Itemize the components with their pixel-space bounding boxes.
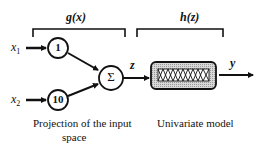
w1-to-sum-arrow bbox=[68, 53, 98, 70]
sum-symbol: Σ bbox=[101, 69, 121, 85]
w2-to-sum-arrow bbox=[68, 84, 98, 96]
h-bracket bbox=[137, 29, 223, 37]
input-x1-label: x1 bbox=[11, 40, 20, 56]
h-function-label: h(z) bbox=[180, 10, 199, 25]
weight-1-value: 1 bbox=[48, 41, 68, 53]
y-label: y bbox=[230, 56, 235, 71]
projection-caption-line1: Projection of the input bbox=[33, 117, 132, 129]
diagram-canvas bbox=[0, 0, 266, 153]
z-label: z bbox=[130, 58, 135, 73]
univariate-caption: Univariate model bbox=[157, 117, 234, 129]
g-bracket bbox=[33, 29, 125, 37]
input-x2-label: x2 bbox=[11, 92, 20, 108]
weight-2-value: 10 bbox=[48, 93, 68, 105]
projection-caption-line2: space bbox=[62, 131, 86, 143]
g-function-label: g(x) bbox=[66, 10, 86, 25]
